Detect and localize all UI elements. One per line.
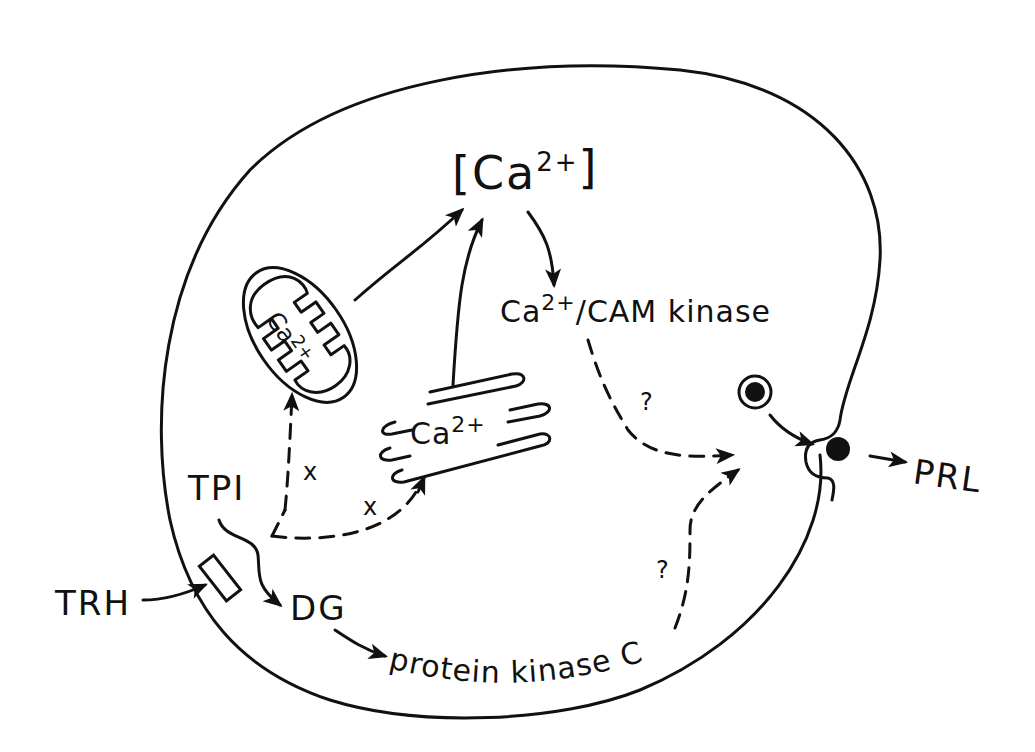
arrow-ca-to-camk — [528, 212, 554, 285]
arrow-dg-to-pkc — [335, 630, 385, 656]
prl-label: PRL — [911, 451, 985, 500]
uncertain-label-pkc: ? — [656, 556, 669, 584]
inhibit-label-mito: x — [303, 458, 317, 486]
trh-label: TRH — [54, 583, 131, 623]
tpi-dashed-corner — [272, 510, 285, 536]
arrow-er-to-ca — [453, 220, 482, 385]
dg-label: DG — [290, 588, 347, 628]
arrow-tpi-to-er — [272, 485, 420, 538]
cell-diagram: Ca2+ Ca2+ [Ca2+] Ca2+/CAM kinase x x TPI… — [0, 0, 1035, 752]
arrow-camk-to-exocytosis — [588, 340, 732, 456]
inhibit-label-er: x — [363, 493, 377, 521]
arrow-tpi-to-mito — [285, 395, 292, 510]
er-ca-label: Ca2+ — [410, 412, 486, 451]
exocytosing-granule — [826, 437, 850, 461]
arrow-granule-to-membrane — [770, 415, 812, 444]
arrow-to-prl — [870, 456, 905, 462]
cytosolic-calcium-label: [Ca2+] — [452, 140, 599, 200]
cam-kinase-label: Ca2+/CAM kinase — [500, 290, 771, 329]
pkc-label: protein kinase C — [387, 634, 647, 690]
uncertain-label-camk: ? — [640, 388, 653, 416]
tpi-label: TPI — [187, 468, 245, 508]
diagram-canvas: Ca2+ Ca2+ [Ca2+] Ca2+/CAM kinase x x TPI… — [0, 0, 1035, 752]
secretory-granule — [739, 376, 771, 408]
arrow-mito-to-ca — [355, 210, 462, 300]
trh-receptor — [199, 555, 240, 601]
arrow-pkc-to-exocytosis — [675, 470, 738, 628]
